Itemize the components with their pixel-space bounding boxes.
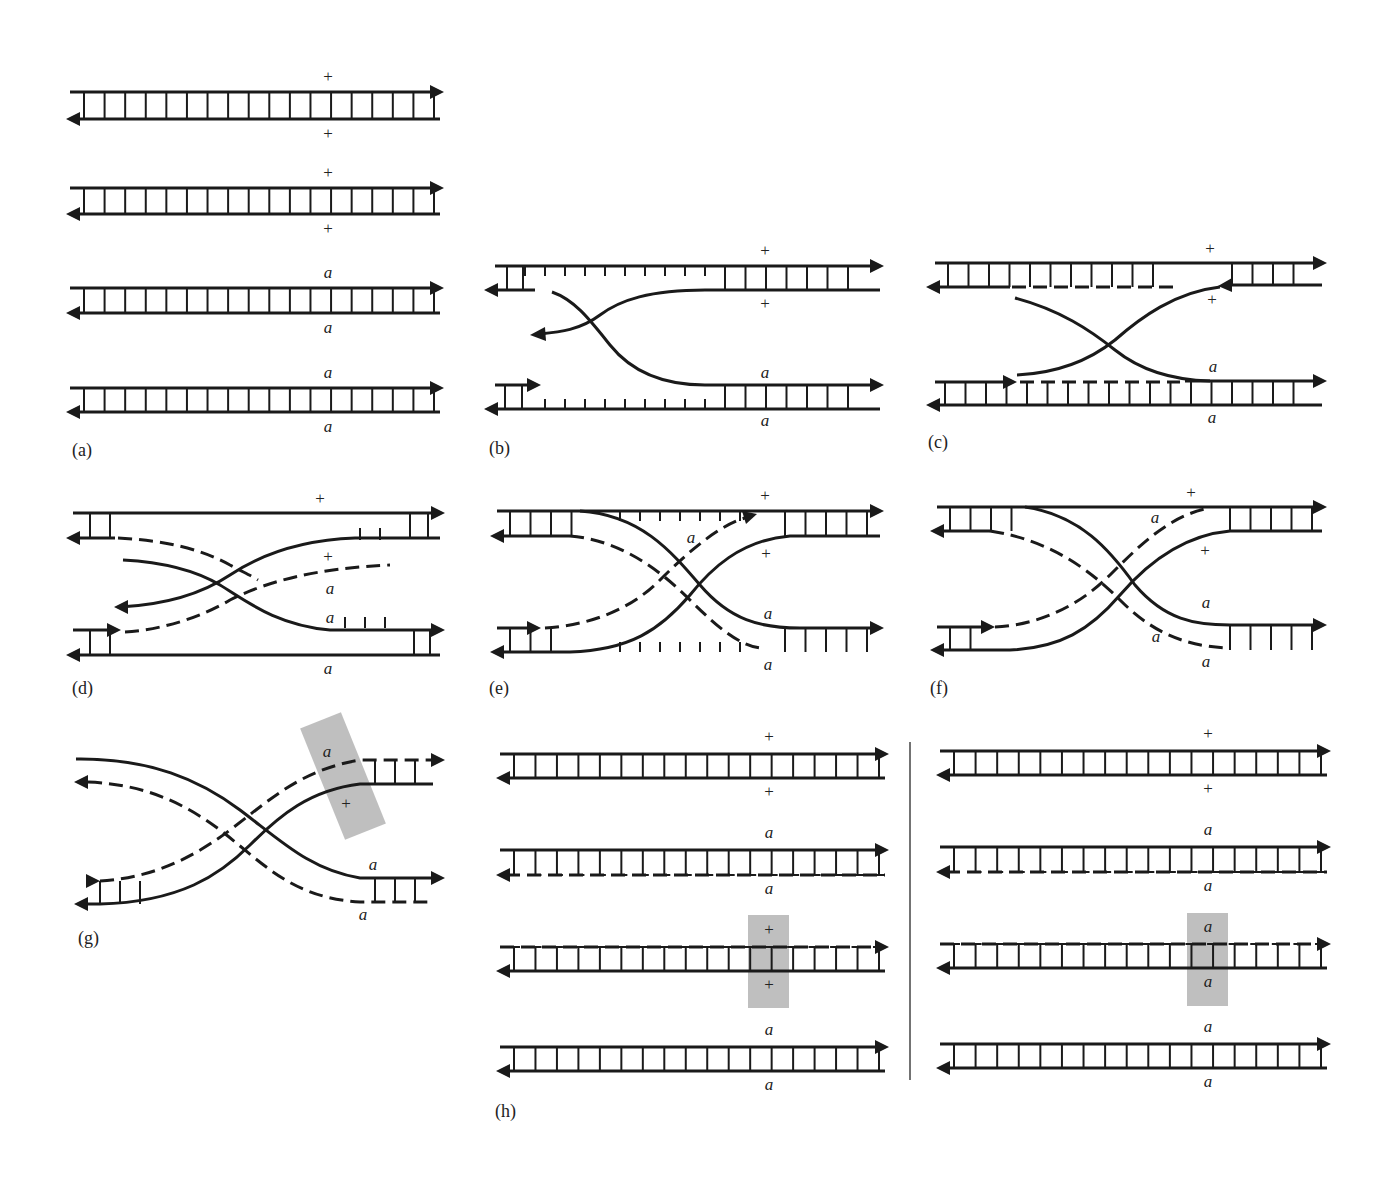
allele-label: +	[1203, 779, 1213, 798]
allele-label: a	[1204, 1072, 1213, 1091]
allele-label: a	[761, 411, 770, 430]
allele-label: +	[764, 920, 774, 939]
allele-label: a	[324, 659, 333, 678]
allele-label: a	[687, 528, 696, 547]
allele-label: a	[1209, 357, 1218, 376]
panel-label-g: (g)	[78, 928, 99, 949]
allele-label: a	[323, 742, 332, 761]
allele-label: a	[765, 1020, 774, 1039]
allele-label: a	[1204, 917, 1213, 936]
allele-label: a	[764, 604, 773, 623]
allele-label: a	[765, 823, 774, 842]
allele-label: +	[1207, 290, 1217, 309]
allele-label: a	[1152, 627, 1161, 646]
allele-label: a	[1208, 408, 1217, 427]
panel-b	[484, 259, 884, 416]
allele-label: +	[323, 67, 333, 86]
allele-label: a	[1204, 1017, 1213, 1036]
allele-label: a	[1151, 508, 1160, 527]
allele-label: a	[324, 318, 333, 337]
panel-label-f: (f)	[930, 678, 948, 699]
allele-label: a	[324, 417, 333, 436]
allele-label: a	[765, 879, 774, 898]
allele-label: a	[1204, 820, 1213, 839]
allele-label: a	[1202, 652, 1211, 671]
allele-label: +	[323, 163, 333, 182]
panel-c	[926, 256, 1327, 412]
allele-label: +	[764, 975, 774, 994]
allele-label: +	[323, 547, 333, 566]
allele-label: +	[760, 294, 770, 313]
allele-label: a	[326, 579, 335, 598]
panel-label-e: (e)	[489, 678, 509, 699]
panel-label-c: (c)	[928, 432, 948, 453]
allele-label: +	[760, 241, 770, 260]
allele-label: +	[341, 794, 351, 813]
allele-label: a	[761, 363, 770, 382]
allele-label: a	[1202, 593, 1211, 612]
mismatch-highlight	[300, 712, 386, 840]
allele-label: +	[761, 544, 771, 563]
allele-label: a	[324, 263, 333, 282]
panel-g	[74, 712, 445, 911]
allele-label: +	[323, 219, 333, 238]
allele-label: +	[323, 124, 333, 143]
allele-label: a	[764, 655, 773, 674]
allele-label: a	[1204, 972, 1213, 991]
allele-label: +	[315, 489, 325, 508]
panel-label-a: (a)	[72, 440, 92, 461]
allele-label: a	[1204, 876, 1213, 895]
panel-label-d: (d)	[72, 678, 93, 699]
allele-label: a	[326, 608, 335, 627]
allele-label: +	[1200, 541, 1210, 560]
recombination-diagram: (a) + + a a (b)	[0, 0, 1383, 1186]
panel-h-right	[936, 744, 1331, 1075]
allele-label: +	[1203, 724, 1213, 743]
allele-label: +	[764, 727, 774, 746]
allele-label: +	[760, 486, 770, 505]
panel-d	[66, 506, 445, 662]
panel-label-h: (h)	[495, 1101, 516, 1122]
allele-label: +	[1186, 483, 1196, 502]
allele-label: a	[369, 855, 378, 874]
panel-label-b: (b)	[489, 438, 510, 459]
allele-label: a	[324, 363, 333, 382]
panel-a	[66, 85, 444, 419]
panel-f	[930, 500, 1327, 657]
panel-h-left	[496, 747, 889, 1078]
allele-label: +	[1205, 239, 1215, 258]
allele-label: a	[765, 1075, 774, 1094]
allele-label: a	[359, 905, 368, 924]
allele-label: +	[764, 782, 774, 801]
